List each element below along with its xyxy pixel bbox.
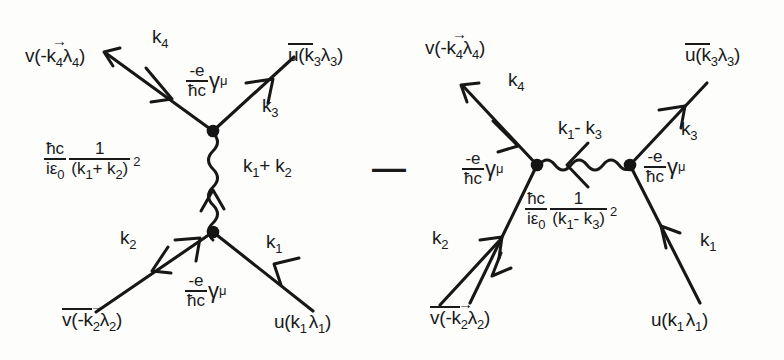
right-left-vf-gamma: γ: [485, 156, 496, 182]
right-prop-power: 2: [610, 204, 617, 231]
left-bot-vf-den: ħc: [185, 290, 207, 310]
left-prop-den1-text: iε: [46, 159, 57, 178]
right-k2-text: k: [432, 227, 441, 248]
left-bottom-vertex-fraction: -e ħc: [185, 272, 207, 310]
right-prop-den2-k: (k: [552, 209, 566, 228]
right-k2-sub: 2: [441, 237, 448, 252]
left-bot-vf-gamma: γ: [208, 278, 219, 304]
left-k4-vector-arrow-icon: →: [52, 33, 67, 48]
right-photon-mom-k: k: [558, 117, 567, 138]
right-k3-label: k3: [681, 119, 697, 142]
right-u-in-label: u(k1λ1): [651, 310, 708, 333]
right-photon-mom-sub3: 3: [595, 127, 602, 142]
right-v-lambda-sub: 4: [472, 47, 479, 62]
left-photon-momentum-label: k1+ k2: [243, 156, 291, 179]
right-prop-den1: iε0: [525, 208, 547, 232]
right-uin-sub-a: 1: [677, 319, 684, 334]
right-k2-fermion-arrow: [492, 253, 511, 276]
left-vbar-text: v(-k: [62, 310, 93, 329]
left-lower-vertex: [207, 226, 220, 239]
right-k1-sub: 1: [709, 239, 716, 254]
right-prop-coupling-fraction: ħc iε0: [525, 190, 547, 231]
left-k1-fermion-arrow: [274, 258, 299, 285]
right-right-vf-gamma: γ: [667, 154, 678, 180]
left-ubar-close: ): [337, 44, 343, 65]
right-vbar-sub-a: 2: [461, 317, 468, 332]
left-top-vf-gamma: γ: [209, 68, 220, 94]
right-uin-close: ): [702, 309, 708, 330]
right-k4-label: k4: [508, 70, 524, 93]
left-k1-label: k1: [266, 232, 282, 255]
left-uin-lambda: λ: [309, 311, 318, 332]
left-k1-sub: 1: [275, 241, 282, 256]
left-prop-den1-sub: 0: [57, 167, 64, 182]
right-right-vertex-factor: -e ħc γμ: [644, 148, 685, 186]
left-upper-vertex: [207, 125, 220, 138]
left-prop-num1: ħc: [44, 140, 66, 158]
left-ubar-sub-b: 3: [330, 54, 337, 69]
left-uin-text: u(k: [274, 311, 300, 332]
right-v-close: ): [479, 37, 485, 58]
left-photon-mom-k: k: [243, 155, 252, 176]
left-incoming-positron-spinor-label: v(-k4λ4): [25, 46, 85, 69]
right-ubar-close: ): [734, 44, 740, 65]
left-v-lambda-sub: 4: [72, 55, 79, 70]
left-k1-line: [213, 232, 313, 311]
left-k3-label: k3: [262, 96, 278, 119]
right-prop-momentum-fraction: 1 (k1- k3): [550, 190, 607, 231]
right-prop-den2-close: ): [599, 209, 605, 228]
left-bottom-vertex-factor: -e ħc γμ: [185, 272, 226, 310]
right-uin-lambda: λ: [686, 309, 695, 330]
right-k1-line: [630, 165, 700, 303]
right-right-vf-index: μ: [678, 159, 685, 174]
left-top-vf-index: μ: [220, 73, 227, 88]
right-k1-label: k1: [700, 230, 716, 253]
left-k1-text: k: [266, 231, 275, 252]
right-photon-mom-op: - k: [574, 117, 595, 138]
left-uin-close: ): [325, 311, 331, 332]
right-right-vertex: [624, 159, 637, 172]
left-k2-fermion-arrow: [152, 247, 171, 273]
right-right-vertex-fraction: -e ħc: [644, 148, 666, 186]
left-prop-den2-k: (k: [71, 159, 85, 178]
left-u-in-label: u(k1λ1): [274, 312, 331, 335]
left-prop-power: 2: [133, 154, 140, 181]
right-k4-sub: 4: [517, 79, 524, 94]
left-photon-mom-sub2: 2: [285, 165, 292, 180]
left-prop-den2: (k1+ k2): [69, 158, 130, 182]
right-uin-sub-b: 1: [695, 319, 702, 334]
left-k2-label: k2: [120, 228, 136, 251]
right-left-vertex-factor: -e ħc γμ: [462, 150, 503, 188]
right-outgoing-ubar-label: u(k3λ3): [685, 45, 740, 68]
left-photon-momentum-arrow: [201, 190, 224, 211]
feynman-diagram-figure: v(-k4λ4) → k4 u(k3λ3) -e ħc γμ k3 ħc iε0…: [0, 0, 784, 360]
right-left-vertex-fraction: -e ħc: [462, 150, 484, 188]
right-k4-fermion-arrow: [493, 121, 518, 152]
left-k3-sub: 3: [271, 105, 278, 120]
right-right-vf-den: ħc: [644, 166, 666, 186]
right-ubar-text: u(k: [685, 45, 711, 64]
right-prop-den2: (k1- k3): [550, 208, 607, 232]
left-v-sub: 4: [56, 55, 63, 70]
left-vbar-sub-b: 2: [109, 319, 116, 334]
left-top-vertex-factor: -e ħc γμ: [186, 62, 227, 100]
left-top-vf-den: ħc: [186, 80, 208, 100]
left-outgoing-ubar-label: u(k3λ3): [288, 45, 343, 68]
left-k2-vector-arrow-icon: →: [90, 298, 105, 313]
right-k1-text: k: [700, 229, 709, 250]
left-k4-label: k4: [152, 27, 168, 50]
left-k2-text: k: [120, 227, 129, 248]
right-v-sub: 4: [456, 47, 463, 62]
left-prop-den1: iε0: [44, 158, 66, 182]
right-k2-label: k2: [432, 228, 448, 251]
left-uin-sub-a: 1: [300, 321, 307, 336]
left-vbar-sub-a: 2: [93, 319, 100, 334]
right-k3-sub: 3: [690, 128, 697, 143]
right-left-vf-index: μ: [496, 161, 503, 176]
right-prop-den1-text: iε: [527, 209, 538, 228]
right-prop-den1-sub: 0: [538, 217, 545, 232]
left-prop-coupling-fraction: ħc iε0: [44, 140, 66, 181]
right-k4-text: k: [508, 69, 517, 90]
right-propagator-block: ħc iε0 1 (k1- k3) 2: [525, 190, 617, 231]
right-photon-propagator: [539, 160, 633, 170]
